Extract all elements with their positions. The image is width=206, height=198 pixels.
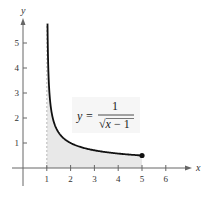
y-tick-label: 1 bbox=[15, 138, 20, 148]
y-axis-ticks: 12345 bbox=[15, 38, 28, 148]
x-axis-label: x bbox=[195, 162, 201, 173]
x-tick-label: 3 bbox=[92, 174, 97, 184]
y-axis-label: y bbox=[20, 5, 26, 16]
endpoint-marker bbox=[139, 153, 144, 158]
function-graph: 123456 12345 x y y = 1 √x − 1 bbox=[0, 0, 206, 198]
y-axis-arrow-icon bbox=[21, 18, 26, 25]
equation-lhs: y = bbox=[76, 109, 93, 123]
x-tick-label: 5 bbox=[140, 174, 145, 184]
x-tick-label: 6 bbox=[164, 174, 169, 184]
function-curve bbox=[48, 24, 142, 156]
y-tick-label: 4 bbox=[15, 63, 20, 73]
equation-denominator: √x − 1 bbox=[99, 117, 130, 131]
equation-numerator: 1 bbox=[112, 99, 118, 113]
x-tick-label: 1 bbox=[45, 174, 50, 184]
y-tick-label: 5 bbox=[15, 38, 20, 48]
x-tick-label: 2 bbox=[68, 174, 73, 184]
x-tick-label: 4 bbox=[116, 174, 121, 184]
y-tick-label: 2 bbox=[15, 113, 20, 123]
x-axis-arrow-icon bbox=[185, 166, 192, 171]
y-tick-label: 3 bbox=[15, 88, 20, 98]
shaded-area-region bbox=[47, 24, 142, 168]
